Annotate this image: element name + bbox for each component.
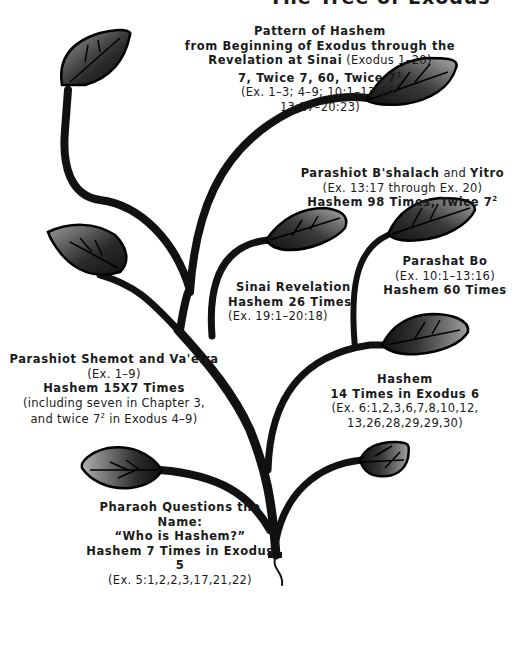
sinai-line-2: Hashem 26 Times [228, 295, 358, 310]
sinai-line-1: Sinai Revelation [228, 280, 358, 295]
exodus6-line-3: (Ex. 6:1,2,3,6,7,8,10,12, [320, 401, 490, 416]
leaf-bottom-left [82, 447, 162, 488]
shemot-line-3: Hashem 15X7 Times [0, 381, 228, 396]
label-pattern-of-hashem: Pattern of Hashem from Beginning of Exod… [150, 24, 490, 114]
label-sinai-revelation: Sinai Revelation Hashem 26 Times (Ex. 19… [228, 280, 358, 324]
leaf-bottom-right [360, 442, 409, 476]
pharaoh-line-4: (Ex. 5:1,2,2,3,17,21,22) [80, 573, 280, 588]
bshalach-line-2: (Ex. 13:17 through Ex. 20) [290, 181, 515, 196]
label-exodus-6: Hashem 14 Times in Exodus 6 (Ex. 6:1,2,3… [320, 372, 490, 430]
exodus6-line-2: 14 Times in Exodus 6 [320, 387, 490, 402]
label-parashat-bo: Parashat Bo (Ex. 10:1–13:16) Hashem 60 T… [380, 254, 510, 298]
label-bshalach-yitro: Parashiot B'shalach and Yitro (Ex. 13:17… [290, 166, 515, 210]
exodus6-line-1: Hashem [320, 372, 490, 387]
bo-line-2: (Ex. 10:1–13:16) [380, 269, 510, 284]
bshalach-line-1: Parashiot B'shalach and Yitro [290, 166, 515, 181]
shemot-line-4: (including seven in Chapter 3, [0, 396, 228, 411]
leaf-top-left [61, 30, 130, 85]
pattern-line-2: from Beginning of Exodus through the [150, 39, 490, 54]
label-pharaoh: Pharaoh Questions the Name: “Who is Hash… [80, 500, 280, 587]
leaf-sinai [266, 208, 346, 250]
shemot-line-5: and twice 72 in Exodus 4–9) [0, 412, 228, 427]
bshalach-line-3: Hashem 98 Times, Twice 72 [290, 195, 515, 210]
leaf-exodus6 [382, 314, 468, 354]
bo-line-3: Hashem 60 Times [380, 283, 510, 298]
pattern-line-5: (Ex. 1–3; 4–9; 10:1–13:16; [150, 85, 490, 100]
pattern-line-6: 13:17–20:23) [150, 100, 490, 115]
pattern-line-3: Revelation at Sinai (Exodus 1–20) [150, 53, 490, 68]
pharaoh-line-3: Hashem 7 Times in Exodus 5 [80, 544, 280, 573]
pattern-line-1: Pattern of Hashem [150, 24, 490, 39]
shemot-line-1: Parashiot Shemot and Va'eira [0, 352, 228, 367]
sinai-line-3: (Ex. 19:1–20:18) [228, 309, 358, 324]
bo-line-1: Parashat Bo [380, 254, 510, 269]
pattern-line-4: 7, Twice 7, 60, Twice 72 [150, 71, 490, 86]
leaf-left-middle [48, 225, 126, 275]
pharaoh-line-1: Pharaoh Questions the Name: [80, 500, 280, 529]
shemot-line-2: (Ex. 1–9) [0, 367, 228, 382]
label-shemot-vaeira: Parashiot Shemot and Va'eira (Ex. 1–9) H… [0, 352, 228, 427]
exodus6-line-4: 13,26,28,29,29,30) [320, 416, 490, 431]
pharaoh-line-2: “Who is Hashem?” [80, 529, 280, 544]
